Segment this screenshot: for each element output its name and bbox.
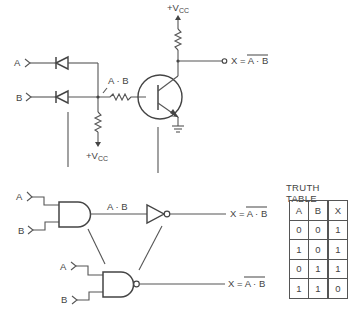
vcc-arrow-icon	[95, 142, 101, 147]
pointer-line	[88, 229, 105, 264]
cell: 0	[290, 220, 309, 240]
and-inverter-equivalent: A B A · B X = A · B	[16, 191, 267, 236]
node-label: A · B	[108, 75, 129, 86]
cell: 1	[328, 240, 348, 260]
input-b-label: B	[16, 92, 22, 103]
output-terminal-icon	[222, 59, 227, 64]
base-vcc-label: +VCC	[86, 150, 108, 162]
nand-input-b-label: B	[61, 294, 67, 305]
cell: 1	[309, 259, 329, 279]
inverter-output-label: X = A · B	[230, 208, 267, 219]
and-input-b-label: B	[18, 225, 24, 236]
nand-bubble-icon	[134, 281, 140, 287]
cell: 0	[328, 279, 348, 299]
diode-b-icon	[56, 91, 68, 103]
inverter-bubble-icon	[164, 211, 170, 217]
and-input-a-label: A	[16, 191, 23, 202]
ground-icon	[172, 126, 184, 132]
diode-a-icon	[56, 57, 68, 69]
table-row: 0 1 1	[290, 259, 348, 279]
and-input-a-terminal-icon	[27, 192, 32, 201]
input-b-terminal-icon	[26, 93, 31, 101]
nand-gate-icon	[103, 272, 133, 297]
nand-gate-equivalent: A B X = A · B	[60, 261, 265, 305]
base-resistor-icon	[110, 94, 146, 100]
table-row: 1 0 1	[290, 240, 348, 260]
input-a-terminal-icon	[25, 59, 30, 67]
junction-dot	[96, 95, 99, 98]
cell: 1	[309, 279, 329, 299]
header-b: B	[309, 201, 329, 221]
nand-output-label: X = A · B	[228, 278, 265, 289]
truth-table: A B X 0 0 1 1 0 1 0 1 1 1 1 0	[289, 200, 348, 299]
and-output-label: A · B	[107, 201, 128, 212]
cell: 1	[328, 259, 348, 279]
header-x: X	[328, 201, 348, 221]
dtl-nand-circuit: A B A · B +VCC	[14, 2, 268, 162]
cell: 0	[309, 220, 329, 240]
table-row: 1 1 0	[290, 279, 348, 299]
collector-resistor-icon	[175, 29, 181, 50]
cell: 1	[328, 220, 348, 240]
top-output-label: X = A · B	[231, 55, 268, 66]
and-input-b-terminal-icon	[28, 226, 33, 234]
and-gate-icon	[59, 202, 91, 227]
collector-vcc-label: +VCC	[167, 2, 189, 14]
cell: 0	[309, 240, 329, 260]
nand-input-b-terminal-icon	[72, 296, 77, 304]
cell: 1	[290, 240, 309, 260]
header-a: A	[290, 201, 309, 221]
cell: 0	[290, 259, 309, 279]
pointer-line	[139, 226, 162, 270]
inverter-icon	[147, 205, 164, 223]
collector-vcc-arrow-icon	[175, 15, 181, 20]
input-a-label: A	[14, 57, 21, 68]
cell: 1	[290, 279, 309, 299]
nand-input-a-label: A	[60, 261, 67, 272]
table-row: 0 0 1	[290, 220, 348, 240]
pullup-resistor-icon	[95, 112, 101, 132]
table-header-row: A B X	[290, 201, 348, 221]
nand-input-a-terminal-icon	[71, 262, 76, 270]
